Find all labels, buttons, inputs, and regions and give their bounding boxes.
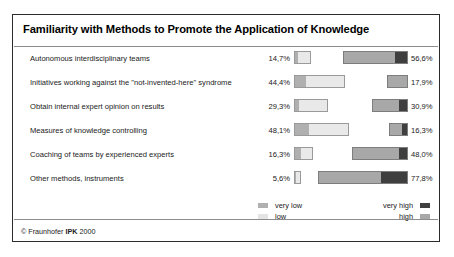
segment-low <box>299 100 327 111</box>
segment-low <box>298 52 310 63</box>
row-left-value: 16,3% <box>244 150 290 159</box>
row-label: Measures of knowledge controlling <box>30 126 147 135</box>
row-left-value: 14,7% <box>244 54 290 63</box>
bar-left <box>294 51 311 64</box>
bar-right <box>387 75 408 88</box>
table-row: Obtain internal expert opinion on result… <box>13 95 439 119</box>
segment-high <box>344 52 395 63</box>
chart-rows: Autonomous interdisciplinary teams 14,7%… <box>13 47 439 191</box>
row-label: Other methods, instruments <box>30 174 124 183</box>
segment-very-high <box>399 148 407 159</box>
table-row: Measures of knowledge controlling 48,1% … <box>13 119 439 143</box>
copyright-org-abbr: IPK <box>65 227 77 236</box>
row-right-value: 56,6% <box>411 54 454 63</box>
row-right-value: 77,8% <box>411 174 454 183</box>
row-left-value: 29,3% <box>244 102 290 111</box>
bar-right <box>389 123 408 136</box>
row-left-value: 48,1% <box>244 126 290 135</box>
segment-high <box>319 172 381 183</box>
segment-high <box>390 124 402 135</box>
bar-left <box>294 99 328 112</box>
legend-item-very-low: very low <box>258 201 302 210</box>
segment-very-high <box>402 124 407 135</box>
row-label: Coaching of teams by experienced experts <box>30 150 174 159</box>
segment-very-high <box>395 52 407 63</box>
legend-swatch-very-low-icon <box>258 203 268 208</box>
table-row: Initiatives working against the "not-inv… <box>13 71 439 95</box>
segment-very-low <box>295 76 306 87</box>
table-row: Coaching of teams by experienced experts… <box>13 143 439 167</box>
row-right-value: 48,0% <box>411 150 454 159</box>
copyright-notice: © Fraunhofer IPK 2000 <box>21 227 95 236</box>
footer-divider <box>14 219 438 220</box>
bar-left <box>294 171 301 184</box>
segment-very-high <box>381 172 407 183</box>
bar-right <box>318 171 408 184</box>
page-title: Familiarity with Methods to Promote the … <box>23 23 429 35</box>
legend-label-very-low: very low <box>275 201 302 210</box>
segment-high <box>388 76 407 87</box>
table-row: Other methods, instruments 5,6% 77,8% <box>13 167 439 191</box>
segment-low <box>301 148 312 159</box>
chart-legend: very low low very high high <box>13 201 439 225</box>
segment-very-low <box>295 124 309 135</box>
row-right-value: 17,9% <box>411 78 454 87</box>
row-left-value: 44,4% <box>244 78 290 87</box>
bar-right <box>372 99 408 112</box>
row-label: Obtain internal expert opinion on result… <box>30 102 164 111</box>
segment-high <box>373 100 399 111</box>
bar-right <box>352 147 408 160</box>
legend-item-very-high: very high <box>368 201 430 210</box>
bar-left <box>294 123 349 136</box>
copyright-year: 2000 <box>77 227 95 236</box>
bar-left <box>294 75 345 88</box>
row-left-value: 5,6% <box>244 174 290 183</box>
row-right-value: 30,9% <box>411 102 454 111</box>
legend-swatch-very-high-icon <box>420 203 430 208</box>
bar-right <box>343 51 408 64</box>
row-right-value: 16,3% <box>411 126 454 135</box>
copyright-org: Fraunhofer <box>28 227 65 236</box>
chart-frame: Familiarity with Methods to Promote the … <box>12 14 440 242</box>
table-row: Autonomous interdisciplinary teams 14,7%… <box>13 47 439 71</box>
copyright-symbol: © <box>21 227 26 236</box>
bar-left <box>294 147 313 160</box>
segment-low <box>296 172 300 183</box>
segment-high <box>353 148 399 159</box>
row-label: Initiatives working against the "not-inv… <box>30 78 232 87</box>
row-label: Autonomous interdisciplinary teams <box>30 54 150 63</box>
segment-low <box>306 76 344 87</box>
legend-label-very-high: very high <box>383 201 413 210</box>
chart-page: Familiarity with Methods to Promote the … <box>0 0 454 257</box>
segment-very-high <box>399 100 407 111</box>
segment-low <box>309 124 348 135</box>
